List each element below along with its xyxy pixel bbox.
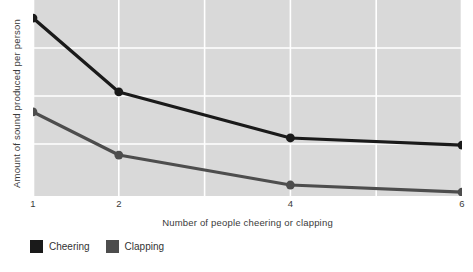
- series-cheering: [33, 14, 462, 150]
- legend-item-cheering: Cheering: [30, 240, 90, 253]
- x-tick-label: 2: [104, 198, 134, 209]
- y-axis-title: Amount of sound produced per person: [11, 4, 22, 204]
- legend-item-clapping: Clapping: [106, 240, 164, 253]
- data-point: [114, 88, 123, 97]
- gridlines: [33, 0, 462, 196]
- data-point: [286, 134, 295, 143]
- legend-label: Cheering: [49, 241, 90, 252]
- x-axis-ticks: 1246: [0, 198, 473, 216]
- legend-label: Clapping: [125, 241, 164, 252]
- plot-area: [33, 0, 462, 196]
- series-layer: [33, 14, 462, 196]
- data-point: [458, 188, 462, 196]
- line-chart: Amount of sound produced per person 1246…: [0, 0, 473, 272]
- x-axis-title: Number of people cheering or clapping: [33, 217, 462, 228]
- series-clapping: [33, 108, 462, 196]
- series-line: [33, 18, 462, 145]
- series-line: [33, 112, 462, 192]
- plot-canvas: [33, 0, 462, 196]
- data-point: [114, 151, 123, 160]
- data-point: [286, 181, 295, 190]
- x-tick-label: 1: [18, 198, 48, 209]
- chart-legend: CheeringClapping: [30, 240, 164, 253]
- data-point: [458, 141, 462, 150]
- x-tick-label: 4: [275, 198, 305, 209]
- legend-swatch-clapping: [106, 240, 119, 253]
- x-tick-label: 6: [447, 198, 473, 209]
- legend-swatch-cheering: [30, 240, 43, 253]
